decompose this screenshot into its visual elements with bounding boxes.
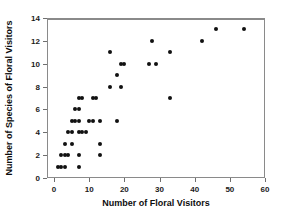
y-axis-tick-label: 4: [36, 128, 40, 137]
data-point: [63, 165, 67, 169]
data-point: [63, 142, 67, 146]
data-point: [147, 62, 151, 66]
data-point: [77, 119, 81, 123]
y-axis-tick-label: 0: [36, 174, 40, 183]
data-point: [108, 85, 112, 89]
data-point: [214, 27, 218, 31]
x-axis-tick: [195, 178, 196, 182]
y-axis-tick: [43, 178, 47, 179]
x-axis-tick: [89, 178, 90, 182]
y-axis-tick: [43, 132, 47, 133]
y-axis-tick-label: 12: [31, 36, 40, 45]
y-axis-tick-label: 14: [31, 14, 40, 23]
data-point: [115, 73, 119, 77]
y-axis-tick-label: 8: [36, 82, 40, 91]
x-axis-tick-label: 10: [85, 185, 94, 194]
y-axis-tick: [43, 18, 47, 19]
data-point: [154, 62, 158, 66]
y-axis-tick: [43, 87, 47, 88]
data-point: [80, 96, 84, 100]
data-point: [98, 119, 102, 123]
x-axis-tick: [124, 178, 125, 182]
data-point: [150, 39, 154, 43]
y-axis-tick: [43, 155, 47, 156]
data-point: [115, 119, 119, 123]
data-point: [242, 27, 246, 31]
data-point: [168, 50, 172, 54]
x-axis-tick-label: 50: [225, 185, 234, 194]
x-axis-tick: [54, 178, 55, 182]
data-points-layer: [47, 18, 265, 178]
y-axis-tick-label: 10: [31, 59, 40, 68]
data-point: [119, 85, 123, 89]
y-axis-tick-label: 6: [36, 105, 40, 114]
x-axis-tick: [265, 178, 266, 182]
data-point: [108, 50, 112, 54]
data-point: [91, 119, 95, 123]
x-axis-tick-label: 40: [190, 185, 199, 194]
data-point: [84, 130, 88, 134]
data-point: [66, 153, 70, 157]
x-axis-label: Number of Floral Visitors: [47, 198, 265, 208]
y-axis-tick: [43, 109, 47, 110]
data-point: [70, 130, 74, 134]
data-point: [77, 165, 81, 169]
y-axis-tick-label: 2: [36, 151, 40, 160]
x-axis-tick-label: 30: [155, 185, 164, 194]
data-point: [200, 39, 204, 43]
data-point: [122, 62, 126, 66]
x-axis-tick-label: 0: [52, 185, 56, 194]
data-point: [98, 153, 102, 157]
data-point: [94, 96, 98, 100]
data-point: [70, 142, 74, 146]
x-axis-tick-label: 60: [261, 185, 270, 194]
y-axis-label: Number of Species of Floral Visitors: [4, 10, 14, 186]
y-axis-tick: [43, 64, 47, 65]
data-point: [168, 96, 172, 100]
y-axis-tick: [43, 41, 47, 42]
data-point: [77, 153, 81, 157]
data-point: [77, 107, 81, 111]
data-point: [98, 142, 102, 146]
x-axis-tick: [160, 178, 161, 182]
scatter-plot-figure: 010203040506002468101214 Number of Flora…: [0, 0, 281, 221]
x-axis-tick: [230, 178, 231, 182]
x-axis-tick-label: 20: [120, 185, 129, 194]
